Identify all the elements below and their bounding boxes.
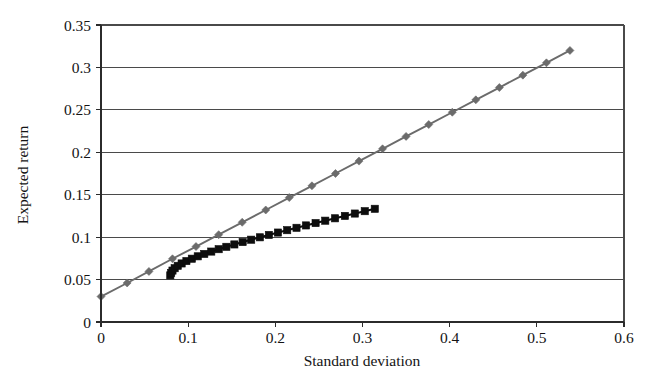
data-point-marker-square [231,241,238,248]
x-tick-label: 0.5 [527,329,547,346]
data-point-marker-square [331,215,338,222]
x-axis-title: Standard deviation [304,352,421,369]
data-point-marker-square [201,250,208,257]
y-tick-label: 0.35 [64,17,91,34]
data-point-marker-square [361,208,368,215]
data-point-marker-square [223,243,230,250]
y-tick-label: 0.25 [64,101,91,118]
data-point-marker-square [248,236,255,243]
data-point-marker-square [322,217,329,224]
x-tick-label: 0.2 [266,329,285,346]
data-point-marker-square [341,212,348,219]
data-point-marker-square [194,253,201,260]
expected-return-vs-standard-deviation-chart: 00.050.10.150.20.250.30.35 00.10.20.30.4… [0,0,664,381]
data-point-marker-square [215,246,222,253]
x-tick-label: 0.6 [614,329,634,346]
data-point-marker-square [312,219,319,226]
y-tick-label: 0.1 [72,229,91,246]
data-point-marker-square [208,248,215,255]
y-axis-title: Expected return [14,125,31,224]
data-point-marker-square [265,231,272,238]
data-point-marker-square [293,224,300,231]
data-point-marker-square [274,229,281,236]
data-point-marker-square [239,238,246,245]
chart-background [0,0,664,381]
y-tick-label: 0.15 [64,186,91,203]
data-point-marker-square [256,234,263,241]
y-tick-label: 0.05 [64,271,91,288]
x-tick-label: 0.4 [440,329,460,346]
x-tick-label: 0 [97,329,105,346]
y-tick-label: 0.3 [72,59,92,76]
x-tick-label: 0.3 [353,329,373,346]
chart-container: 00.050.10.150.20.250.30.35 00.10.20.30.4… [0,0,664,381]
y-tick-label: 0 [83,314,91,331]
y-tick-label: 0.2 [72,144,91,161]
data-point-marker-square [302,222,309,229]
data-point-marker-square [351,210,358,217]
data-point-marker-square [371,205,378,212]
data-point-marker-square [284,227,291,234]
x-tick-label: 0.1 [178,329,197,346]
